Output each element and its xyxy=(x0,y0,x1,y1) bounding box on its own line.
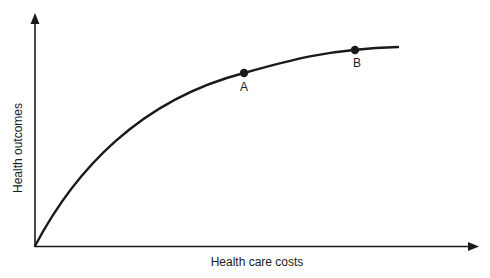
point-a-marker xyxy=(240,69,248,77)
point-a-label: A xyxy=(240,80,248,94)
point-b-label: B xyxy=(353,56,361,70)
x-axis-label: Health care costs xyxy=(211,255,304,269)
y-axis-label: Health outcomes xyxy=(11,103,25,193)
point-b-marker xyxy=(351,46,359,54)
y-axis-arrow-icon xyxy=(31,13,40,24)
x-axis-arrow-icon xyxy=(468,242,479,251)
production-curve xyxy=(35,47,398,246)
health-production-chart: A B Health care costs Health outcomes xyxy=(0,0,490,278)
chart-canvas: A B Health care costs Health outcomes xyxy=(0,0,490,278)
